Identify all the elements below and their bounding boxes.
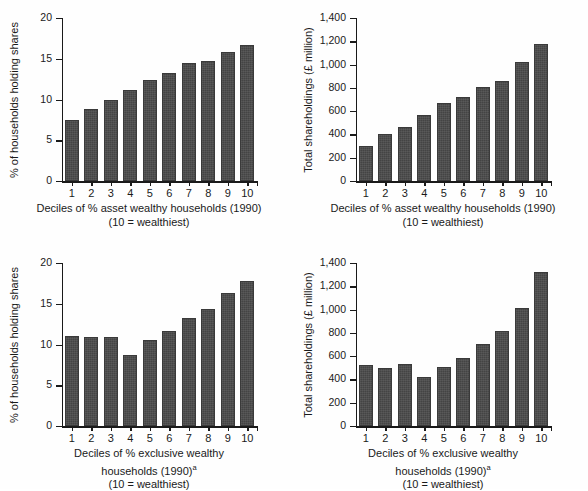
y-axis-tick-label: 5 [46, 378, 52, 390]
x-axis-tick-label: 3 [402, 187, 408, 200]
bar [182, 63, 196, 181]
y-axis-title-label: Total shareholdings (£ million) [302, 27, 314, 173]
x-axis-tick [522, 427, 523, 431]
y-axis-tick: 15 [56, 304, 62, 305]
y-axis-tick-label: 200 [328, 396, 346, 408]
x-axis-title-line: households (1990)a [304, 461, 582, 478]
x-axis-tick-label: 8 [205, 432, 211, 445]
x-axis-tick [208, 182, 209, 186]
x-axis-tick-label: 4 [127, 432, 133, 445]
y-axis-tick: 0 [56, 181, 62, 182]
x-axis-tick [111, 182, 112, 186]
x-axis-tick [130, 182, 131, 186]
y-axis-tick: 200 [350, 403, 356, 404]
y-axis-tick: 1,000 [350, 310, 356, 311]
bar [65, 336, 79, 426]
x-axis-tick-label: 8 [499, 432, 505, 445]
y-axis-tick-label: 0 [46, 419, 52, 431]
y-axis-tick-label: 1,400 [320, 11, 346, 23]
x-axis-end-tick [257, 182, 258, 186]
y-axis-tick-label: 1,000 [320, 303, 346, 315]
bar [240, 281, 254, 426]
x-axis-tick-label: 5 [441, 432, 447, 445]
bar [162, 331, 176, 426]
bar [359, 146, 373, 181]
x-axis-tick-label: 5 [441, 187, 447, 200]
y-axis-tick: 10 [56, 100, 62, 101]
y-axis-tick: 400 [350, 134, 356, 135]
x-axis-tick-label: 7 [480, 187, 486, 200]
x-axis-tick [366, 427, 367, 431]
x-axis-tick [502, 182, 503, 186]
bar [143, 340, 157, 426]
bar [221, 293, 235, 426]
x-axis-end-tick [257, 427, 258, 431]
y-axis-title: % of households holding shares [6, 263, 22, 427]
bar [182, 318, 196, 426]
y-axis-tick: 400 [350, 379, 356, 380]
x-axis-tick-label: 9 [225, 187, 231, 200]
x-axis-title-line: Deciles of % asset wealthy households (1… [304, 202, 582, 216]
y-axis-tick: 600 [350, 356, 356, 357]
x-axis-tick-label: 10 [535, 432, 547, 445]
bar [378, 134, 392, 181]
x-axis-tick-label: 7 [186, 187, 192, 200]
x-axis-tick [228, 182, 229, 186]
x-axis-tick [444, 182, 445, 186]
x-axis-title-line: Deciles of % asset wealthy households (1… [10, 202, 288, 216]
x-axis-title: Deciles of % exclusive wealthyhouseholds… [304, 447, 582, 491]
x-axis-tick [541, 182, 542, 186]
bar [495, 81, 509, 181]
x-axis-tick [228, 427, 229, 431]
x-axis-title: Deciles of % asset wealthy households (1… [304, 202, 582, 229]
x-axis-tick-label: 4 [127, 187, 133, 200]
x-axis-tick-label: 2 [88, 187, 94, 200]
plot-area [62, 18, 257, 181]
x-axis-tick-label: 1 [69, 187, 75, 200]
x-axis-tick [91, 427, 92, 431]
bar [201, 61, 215, 181]
x-axis-tick-label: 7 [480, 432, 486, 445]
x-axis-tick-label: 6 [166, 432, 172, 445]
x-axis-title-line: Deciles of % exclusive wealthy [304, 447, 582, 461]
bar [456, 97, 470, 181]
bar [495, 331, 509, 426]
x-axis-tick-label: 5 [147, 432, 153, 445]
bar [456, 358, 470, 426]
plot-area [62, 263, 257, 426]
bar [515, 62, 529, 181]
y-axis-title: Total shareholdings (£ million) [300, 18, 316, 182]
y-axis-tick-label: 600 [328, 349, 346, 361]
y-axis-title-label: % of households holding shares [8, 267, 20, 423]
y-axis-tick-label: 800 [328, 81, 346, 93]
bar [201, 309, 215, 426]
x-axis-tick-label: 3 [402, 432, 408, 445]
x-axis-tick [444, 427, 445, 431]
footnote-marker: a [486, 463, 490, 472]
y-axis-tick: 10 [56, 345, 62, 346]
y-axis-tick-label: 15 [40, 52, 52, 64]
x-axis-tick [424, 427, 425, 431]
x-axis-tick-label: 1 [363, 432, 369, 445]
x-axis-tick [463, 427, 464, 431]
plot-area [356, 18, 551, 181]
bar [378, 368, 392, 426]
y-axis-tick: 1,400 [350, 18, 356, 19]
y-axis-tick: 800 [350, 333, 356, 334]
x-axis-tick-label: 5 [147, 187, 153, 200]
x-axis-tick-label: 8 [499, 187, 505, 200]
x-axis-tick [522, 182, 523, 186]
x-axis-tick [169, 182, 170, 186]
y-axis-tick-label: 400 [328, 127, 346, 139]
x-axis-tick-label: 9 [519, 432, 525, 445]
x-axis-tick-label: 6 [166, 187, 172, 200]
x-axis-tick [150, 182, 151, 186]
y-axis-tick: 20 [56, 263, 62, 264]
bar [123, 355, 137, 426]
x-axis-tick-label: 10 [535, 187, 547, 200]
x-axis-tick-label: 10 [241, 432, 253, 445]
x-axis-tick [72, 182, 73, 186]
bar [515, 308, 529, 426]
bar [476, 344, 490, 426]
